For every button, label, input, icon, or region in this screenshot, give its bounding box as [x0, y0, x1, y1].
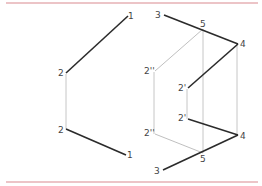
- projection-diagram: 1 2 2 1 3 5 4: [0, 0, 262, 186]
- label-left-1-bottom: 1: [127, 150, 133, 160]
- label-right-3-bottom: 3: [154, 166, 160, 176]
- left-view: 1 2 2 1: [58, 11, 134, 160]
- label-right-3-top: 3: [155, 10, 161, 20]
- heavy-line-2prime-to-4-bottom: [188, 119, 238, 135]
- label-left-2-upper: 2: [58, 68, 64, 78]
- heavy-line-4-to-3-bottom: [163, 135, 238, 170]
- label-right-2dprime-upper: 2'': [144, 66, 155, 76]
- label-left-2-lower: 2: [58, 125, 64, 135]
- label-right-2dprime-lower: 2'': [144, 128, 155, 138]
- label-right-4-bottom: 4: [240, 131, 246, 141]
- thin-line-2dprime-to-5-bottom: [155, 134, 203, 153]
- label-right-4-top: 4: [240, 39, 246, 49]
- diagram-canvas: 1 2 2 1 3 5 4: [0, 0, 262, 186]
- right-view: 3 5 4 2' 2'' 2' 2'' 4 5 3: [144, 10, 246, 176]
- label-right-5-bottom: 5: [200, 154, 206, 164]
- heavy-line-4-to-2prime-top: [188, 44, 238, 88]
- thin-line-5-to-2dprime-top: [155, 29, 203, 71]
- label-right-5-top: 5: [200, 19, 206, 29]
- left-lower-heavy-line: [66, 129, 126, 155]
- label-left-1-top: 1: [128, 11, 134, 21]
- label-right-2prime-lower: 2': [178, 113, 186, 123]
- label-right-2prime-upper: 2': [178, 83, 186, 93]
- left-upper-heavy-line: [66, 16, 128, 73]
